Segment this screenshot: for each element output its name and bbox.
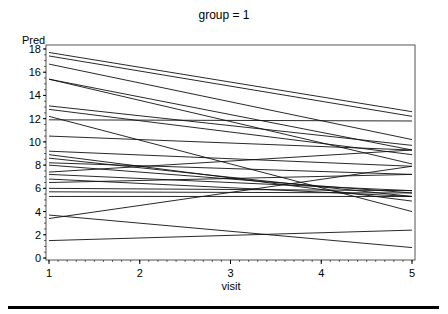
series-line-subject-1 bbox=[49, 52, 412, 111]
series-line-subject-2 bbox=[49, 56, 412, 116]
series-line-subject-17 bbox=[49, 174, 412, 190]
svg-text:0: 0 bbox=[35, 252, 41, 264]
plot-area: 024681012141618 12345 bbox=[0, 0, 448, 314]
x-axis: 12345 bbox=[46, 260, 415, 279]
svg-text:6: 6 bbox=[35, 182, 41, 194]
series-line-subject-10 bbox=[49, 136, 412, 150]
svg-text:2: 2 bbox=[137, 267, 143, 279]
svg-text:2: 2 bbox=[35, 229, 41, 241]
svg-text:3: 3 bbox=[227, 267, 233, 279]
plot-frame bbox=[46, 45, 415, 260]
series-line-subject-5 bbox=[49, 79, 412, 164]
series-line-subject-9 bbox=[49, 120, 412, 121]
svg-text:10: 10 bbox=[29, 136, 41, 148]
svg-text:5: 5 bbox=[409, 267, 415, 279]
svg-text:14: 14 bbox=[29, 89, 41, 101]
svg-text:12: 12 bbox=[29, 113, 41, 125]
svg-text:4: 4 bbox=[35, 206, 41, 218]
svg-text:18: 18 bbox=[29, 43, 41, 55]
series-line-subject-19 bbox=[49, 174, 412, 182]
series-lines bbox=[49, 52, 412, 247]
divider-rule bbox=[8, 306, 439, 309]
series-line-subject-6 bbox=[49, 106, 412, 145]
svg-text:4: 4 bbox=[318, 267, 324, 279]
svg-text:16: 16 bbox=[29, 66, 41, 78]
svg-text:1: 1 bbox=[46, 267, 52, 279]
series-line-subject-3 bbox=[49, 64, 412, 139]
y-axis: 024681012141618 bbox=[29, 43, 46, 264]
svg-text:8: 8 bbox=[35, 159, 41, 171]
